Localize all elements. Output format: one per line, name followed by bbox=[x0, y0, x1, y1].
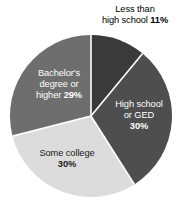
slice-value-less-than-high-school: 11% bbox=[150, 15, 168, 25]
slice-label-text: high school bbox=[102, 15, 150, 25]
slice-label-line: High school bbox=[104, 99, 174, 110]
slice-label-bachelors-degree-or-higher: Bachelor's degree or higher 29% bbox=[18, 68, 100, 101]
slice-label-line: Bachelor's bbox=[18, 68, 100, 79]
slice-label-line: degree or bbox=[18, 79, 100, 90]
slice-label-line: higher 29% bbox=[18, 90, 100, 101]
pie-chart-figure: Less than high school 11% High school or… bbox=[0, 0, 179, 217]
slice-label-line: Some college bbox=[20, 148, 114, 159]
slice-label-some-college: Some college 30% bbox=[20, 148, 114, 170]
slice-value-some-college: 30% bbox=[20, 159, 114, 170]
slice-value-high-school-or-ged: 30% bbox=[104, 121, 174, 132]
slice-label-line: or GED bbox=[104, 110, 174, 121]
slice-label-high-school-or-ged: High school or GED 30% bbox=[104, 99, 174, 132]
slice-label-less-than-high-school: Less than high school 11% bbox=[92, 4, 178, 26]
slice-value-bachelors-degree-or-higher: 29% bbox=[64, 90, 82, 100]
slice-label-line: high school 11% bbox=[92, 15, 178, 26]
leader-line-less-than-high-school bbox=[119, 29, 124, 42]
slice-label-text: higher bbox=[36, 90, 64, 100]
slice-label-line: Less than bbox=[92, 4, 178, 15]
